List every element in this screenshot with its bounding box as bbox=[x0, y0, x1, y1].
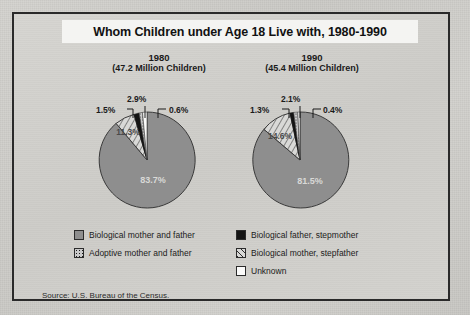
legend-column-left: Biological mother and father Adoptive mo… bbox=[74, 227, 195, 263]
callout-1980-left: 1.5% bbox=[96, 106, 115, 115]
chart-frame: Whom Children under Age 18 Live with, 19… bbox=[12, 12, 450, 301]
legend-label: Biological father, stepmother bbox=[251, 230, 358, 240]
panel-subtitle-1990: (45.4 Million Children) bbox=[212, 63, 412, 74]
callout-1990-right: 0.4% bbox=[323, 106, 342, 115]
legend-label: Unknown bbox=[251, 266, 286, 276]
legend-item-biological-mother-stepfather: Biological mother, stepfather bbox=[236, 245, 358, 261]
legend: Biological mother and father Adoptive mo… bbox=[74, 227, 404, 275]
callout-1980-top: 2.9% bbox=[127, 95, 146, 104]
panel-year-1990: 1990 bbox=[212, 52, 412, 63]
callout-1990-left: 1.3% bbox=[250, 106, 269, 115]
pie-value-major-1980: 83.7% bbox=[140, 175, 166, 185]
legend-label: Adoptive mother and father bbox=[89, 248, 192, 258]
chart-page: Whom Children under Age 18 Live with, 19… bbox=[0, 0, 470, 315]
legend-column-right: Biological father, stepmother Biological… bbox=[236, 227, 358, 281]
pie-value-major-1990: 81.5% bbox=[297, 176, 323, 186]
legend-item-unknown: Unknown bbox=[236, 263, 358, 279]
legend-item-biological-mother-father: Biological mother and father bbox=[74, 227, 195, 243]
chart-title-box: Whom Children under Age 18 Live with, 19… bbox=[62, 20, 418, 43]
gray-swatch-icon bbox=[74, 230, 84, 240]
page-title: Whom Children under Age 18 Live with, 19… bbox=[93, 25, 387, 39]
legend-label: Biological mother and father bbox=[89, 230, 195, 240]
pie-value-hatch-1990: 14.6% bbox=[268, 131, 293, 141]
legend-item-biological-father-stepmother: Biological father, stepmother bbox=[236, 227, 358, 243]
pie-slices-1980 bbox=[99, 112, 195, 208]
callout-1990-top: 2.1% bbox=[281, 95, 300, 104]
callout-1980-right: 0.6% bbox=[169, 106, 188, 115]
white-swatch-icon bbox=[236, 266, 246, 276]
source-note: Source: U.S. Bureau of the Census. bbox=[42, 291, 169, 300]
pie-value-hatch-1980: 11.3% bbox=[116, 127, 140, 137]
black-swatch-icon bbox=[236, 230, 246, 240]
panel-header-1990: 1990 (45.4 Million Children) bbox=[212, 52, 412, 74]
legend-item-adoptive-mother-father: Adoptive mother and father bbox=[74, 245, 195, 261]
pie-slices-1990 bbox=[253, 112, 349, 208]
hatched-swatch-icon bbox=[236, 248, 246, 258]
dotted-swatch-icon bbox=[74, 248, 84, 258]
legend-label: Biological mother, stepfather bbox=[251, 248, 358, 258]
